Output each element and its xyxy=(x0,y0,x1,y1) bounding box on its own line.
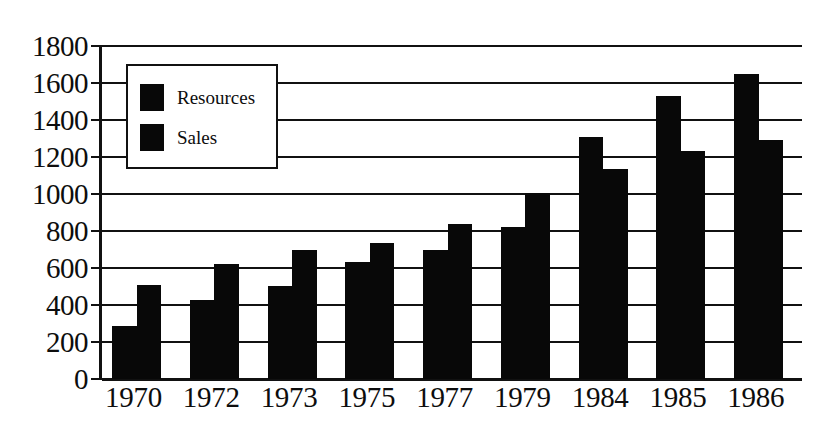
x-axis-tick-label: 1975 xyxy=(338,383,395,412)
bar-resources-1984 xyxy=(579,137,604,379)
bar-resources-1986 xyxy=(734,74,759,379)
bar-sales-1975 xyxy=(370,243,395,379)
legend-item-resources: Resources xyxy=(140,77,276,117)
y-axis-tick-label: 1000 xyxy=(32,180,88,209)
legend-item-sales: Sales xyxy=(140,117,276,157)
bar-resources-1972 xyxy=(190,300,215,379)
legend-label: Sales xyxy=(177,128,217,147)
y-tick-mark-600 xyxy=(91,267,102,269)
bar-resources-1973 xyxy=(268,286,293,379)
bar-sales-1970 xyxy=(137,285,162,379)
chart-legend: ResourcesSales xyxy=(126,64,278,169)
y-axis-tick-label: 800 xyxy=(46,217,88,246)
legend-swatch-icon xyxy=(140,84,164,111)
y-axis-tick-label: 1800 xyxy=(32,32,88,61)
y-axis-labels: 020040060080010001200140016001800 xyxy=(0,0,96,445)
x-axis-tick-label: 1972 xyxy=(183,383,240,412)
bar-sales-1986 xyxy=(759,140,784,379)
bar-resources-1985 xyxy=(656,96,681,379)
bar-group-1984 xyxy=(579,46,628,379)
y-tick-mark-1800 xyxy=(91,45,102,47)
y-axis-tick-label: 0 xyxy=(74,365,88,394)
y-tick-mark-0 xyxy=(91,378,102,380)
x-axis-tick-label: 1985 xyxy=(650,383,707,412)
bar-resources-1970 xyxy=(112,326,137,379)
legend-label: Resources xyxy=(177,88,255,107)
bar-resources-1977 xyxy=(423,250,448,380)
y-tick-mark-1000 xyxy=(91,193,102,195)
x-axis-tick-label: 1970 xyxy=(105,383,162,412)
bar-resources-1975 xyxy=(345,262,370,379)
y-tick-mark-400 xyxy=(91,304,102,306)
legend-swatch-icon xyxy=(140,124,164,151)
x-axis-tick-label: 1979 xyxy=(494,383,551,412)
bar-group-1985 xyxy=(656,46,705,379)
bar-sales-1979 xyxy=(525,193,550,379)
y-tick-mark-1200 xyxy=(91,156,102,158)
y-tick-mark-1400 xyxy=(91,119,102,121)
y-axis-tick-label: 1600 xyxy=(32,69,88,98)
bar-sales-1985 xyxy=(681,151,706,379)
bar-sales-1977 xyxy=(448,224,473,379)
y-axis-tick-label: 1200 xyxy=(32,143,88,172)
x-axis-tick-label: 1977 xyxy=(416,383,473,412)
x-axis-tick-label: 1973 xyxy=(261,383,318,412)
bar-group-1977 xyxy=(423,46,472,379)
y-axis-tick-label: 400 xyxy=(46,291,88,320)
bar-group-1979 xyxy=(501,46,550,379)
bar-sales-1973 xyxy=(292,250,317,380)
y-tick-mark-200 xyxy=(91,341,102,343)
y-axis-tick-label: 200 xyxy=(46,328,88,357)
bar-group-1986 xyxy=(734,46,783,379)
y-axis-tick-label: 1400 xyxy=(32,106,88,135)
bar-group-1975 xyxy=(345,46,394,379)
bar-sales-1972 xyxy=(214,264,239,379)
bar-sales-1984 xyxy=(603,169,628,379)
x-axis-labels: 197019721973197519771979198419851986 xyxy=(99,383,799,433)
x-axis-tick-label: 1984 xyxy=(572,383,629,412)
x-axis-tick-label: 1986 xyxy=(727,383,784,412)
y-axis-tick-label: 600 xyxy=(46,254,88,283)
y-tick-mark-800 xyxy=(91,230,102,232)
y-tick-mark-1600 xyxy=(91,82,102,84)
bar-resources-1979 xyxy=(501,227,526,379)
bar-chart: 020040060080010001200140016001800 197019… xyxy=(0,0,816,445)
